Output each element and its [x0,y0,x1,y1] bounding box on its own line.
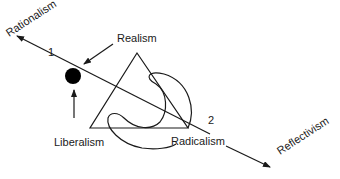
triangle-shape [90,53,188,128]
point-1-label: 1 [48,46,54,58]
position-1-dot [65,68,81,84]
liberalism-label: Liberalism [54,136,104,148]
radicalism-label: Radicalism [171,135,225,147]
reflectivism-label: Reflectivism [275,114,331,156]
rationalism-label: Rationalism [4,0,59,39]
realism-label: Realism [117,32,157,44]
point-2-label: 2 [208,114,214,126]
ir-theory-diagram: Rationalism 1 Realism Liberalism 2 Radic… [0,0,340,179]
realism-arrow [84,44,113,64]
reflectivism-arrow [226,146,270,167]
